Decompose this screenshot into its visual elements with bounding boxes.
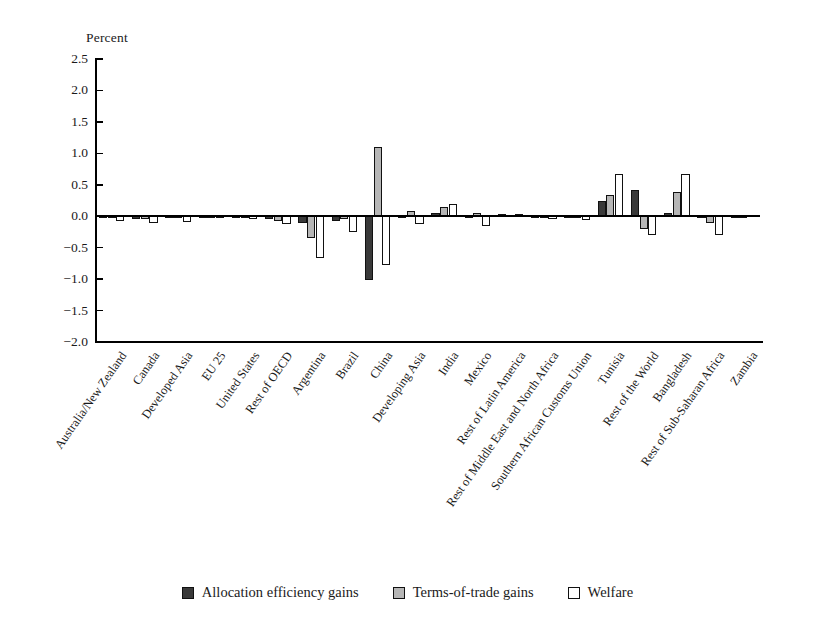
y-tick-label: 2.5: [71, 51, 88, 67]
bar-alloc[interactable]: [598, 201, 606, 217]
legend-label: Allocation efficiency gains: [202, 584, 359, 601]
bar-wel[interactable]: [316, 216, 324, 258]
legend-swatch-wel-icon: [568, 587, 580, 599]
bar-wel[interactable]: [349, 216, 357, 232]
bar-wel[interactable]: [648, 216, 656, 235]
bar-group: [564, 59, 589, 342]
bar-group: [631, 59, 656, 342]
legend-swatch-alloc-icon: [182, 587, 194, 599]
bar-group: [731, 59, 756, 342]
y-tick-label: 0.0: [71, 208, 88, 224]
y-axis-tick: [95, 341, 103, 343]
y-axis-tick: [95, 215, 103, 217]
chart-legend: Allocation efficiency gainsTerms-of-trad…: [0, 584, 815, 601]
bar-tot[interactable]: [673, 192, 681, 216]
bar-group: [332, 59, 357, 342]
chart-canvas: Percent 2.52.01.51.00.50.0−0.5−1.0−1.5−2…: [0, 0, 815, 627]
bar-wel[interactable]: [681, 174, 689, 216]
y-axis-tick: [95, 278, 103, 280]
bar-group: [465, 59, 490, 342]
bar-group: [199, 59, 224, 342]
bar-group: [298, 59, 323, 342]
x-axis-baseline: [95, 341, 763, 343]
legend-item-wel[interactable]: Welfare: [568, 584, 634, 601]
bar-alloc[interactable]: [365, 216, 373, 280]
y-axis-tick: [95, 247, 103, 249]
bar-wel[interactable]: [415, 216, 423, 224]
plot-area: [95, 59, 760, 342]
bar-wel[interactable]: [615, 174, 623, 216]
bar-wel[interactable]: [482, 216, 490, 225]
y-tick-label: −2.0: [64, 334, 89, 350]
bar-wel[interactable]: [183, 216, 191, 222]
legend-label: Terms-of-trade gains: [413, 584, 534, 601]
legend-item-alloc[interactable]: Allocation efficiency gains: [182, 584, 359, 601]
bar-group: [697, 59, 722, 342]
bar-tot[interactable]: [606, 195, 614, 216]
bar-group: [232, 59, 257, 342]
legend-swatch-tot-icon: [393, 587, 405, 599]
y-tick-label: −0.5: [64, 240, 89, 256]
bar-wel[interactable]: [282, 216, 290, 224]
y-axis-tick-labels: 2.52.01.51.00.50.0−0.5−1.0−1.5−2.0: [34, 59, 88, 342]
bar-tot[interactable]: [374, 147, 382, 216]
legend-item-tot[interactable]: Terms-of-trade gains: [393, 584, 534, 601]
y-tick-label: −1.5: [64, 303, 89, 319]
legend-label: Welfare: [588, 584, 634, 601]
bar-wel[interactable]: [149, 216, 157, 222]
y-axis-tick: [95, 90, 103, 92]
y-tick-label: 0.5: [71, 177, 88, 193]
bar-group: [99, 59, 124, 342]
bar-wel[interactable]: [449, 204, 457, 217]
bar-group: [165, 59, 190, 342]
y-axis-tick: [95, 310, 103, 312]
bar-wel[interactable]: [382, 216, 390, 265]
bar-tot[interactable]: [706, 216, 714, 222]
y-axis-tick: [95, 58, 103, 60]
bar-group: [398, 59, 423, 342]
y-axis-tick: [95, 153, 103, 155]
bar-group: [132, 59, 157, 342]
bar-group: [265, 59, 290, 342]
y-tick-label: −1.0: [64, 271, 89, 287]
bar-tot[interactable]: [640, 216, 648, 229]
bar-alloc[interactable]: [298, 216, 306, 222]
y-tick-label: 1.5: [71, 114, 88, 130]
bar-wel[interactable]: [715, 216, 723, 235]
y-tick-label: 1.0: [71, 145, 88, 161]
x-axis-zero-line: [95, 215, 760, 217]
y-tick-label: 2.0: [71, 82, 88, 98]
y-axis-tick: [95, 121, 103, 123]
y-axis-tick: [95, 184, 103, 186]
bar-group: [598, 59, 623, 342]
bar-alloc[interactable]: [631, 190, 639, 216]
y-axis-title: Percent: [86, 30, 128, 46]
bar-group: [498, 59, 523, 342]
bar-tot[interactable]: [307, 216, 315, 238]
bar-group: [365, 59, 390, 342]
bar-group: [664, 59, 689, 342]
bar-group: [531, 59, 556, 342]
bar-group: [431, 59, 456, 342]
